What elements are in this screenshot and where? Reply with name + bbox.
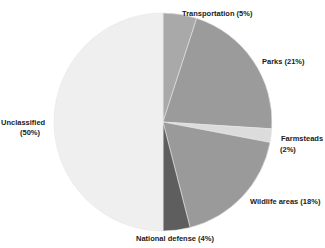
label-unclassified-line1: Unclassified xyxy=(1,118,46,127)
label-national-defense: National defense (4%) xyxy=(136,234,214,243)
label-farmsteads-line1: Farmsteads xyxy=(281,134,323,143)
slice-unclassified xyxy=(54,13,163,231)
label-farmsteads-line2: (2%) xyxy=(280,145,296,154)
label-parks: Parks (21%) xyxy=(262,57,305,66)
label-transportation: Transportation (5%) xyxy=(182,9,253,18)
label-unclassified-line2: (50%) xyxy=(20,128,41,137)
pie-chart: Transportation (5%) Parks (21%) Farmstea… xyxy=(0,0,325,248)
pie-slices xyxy=(54,13,272,231)
label-wildlife-areas: Wildlife areas (18%) xyxy=(250,197,321,206)
